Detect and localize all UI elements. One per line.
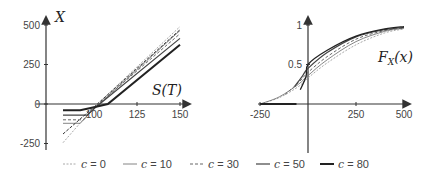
left-y-axis-title: X [54,9,66,25]
legend-item: c = 0 [63,158,106,171]
legend-item: c = 50 [256,158,305,171]
legend-item: c = 80 [320,158,369,171]
right-series-group [260,27,404,104]
left-y-tick-label: -250 [20,138,40,149]
left-y-tick-label: 500 [23,20,40,31]
chart-figure: 100125150-2500250500 X S(T) -2502505000.… [0,0,434,180]
right-series-c-10 [260,28,404,104]
left-series-c-80 [63,45,180,111]
legend-item: c = 30 [190,158,239,171]
legend-item: c = 10 [123,158,172,171]
right-series-c-0 [260,29,404,104]
right-curve-label: FX(x) [377,49,413,67]
legend-label: c = 50 [274,158,305,171]
right-chart-panel: -2502505000.51 FX(x) [250,17,413,153]
legend-label: c = 80 [338,158,369,171]
left-x-tick-label: 150 [172,109,189,120]
left-y-tick-label: 250 [23,59,40,70]
right-x-tick-label: 250 [348,109,365,120]
right-y-tick-label: 1 [296,20,302,31]
legend-label: c = 10 [141,158,172,171]
legend-label: c = 0 [81,158,106,171]
right-x-tick-label: 500 [396,109,413,120]
right-y-tick-label: 0.5 [288,59,302,70]
left-x-tick-label: 100 [86,109,103,120]
left-x-tick-label: 125 [129,109,146,120]
legend-label: c = 30 [208,158,239,171]
right-x-tick-label: -250 [250,109,270,120]
left-chart-panel: 100125150-2500250500 X S(T) [20,9,190,150]
left-x-axis-title: S(T) [152,82,182,98]
legend: c = 0c = 10c = 30c = 50c = 80 [63,158,369,171]
left-y-tick-label: 0 [34,99,40,110]
